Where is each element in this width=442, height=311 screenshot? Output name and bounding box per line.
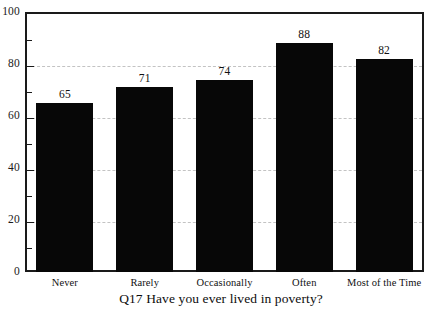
bar bbox=[36, 103, 93, 272]
y-axis-label-20: 20 bbox=[0, 214, 20, 226]
y-axis-label-100: 100 bbox=[0, 6, 20, 18]
bars-layer: 6571748882 bbox=[25, 12, 424, 272]
bar-value-label: 65 bbox=[36, 88, 93, 100]
x-axis-label-most-of-the-time: Most of the Time bbox=[334, 277, 434, 289]
bar-value-label: 82 bbox=[356, 44, 413, 56]
bar bbox=[196, 80, 253, 272]
bar bbox=[356, 59, 413, 272]
bar-value-label: 88 bbox=[276, 28, 333, 40]
bar bbox=[116, 87, 173, 272]
bar bbox=[276, 43, 333, 272]
y-axis-label-40: 40 bbox=[0, 162, 20, 174]
y-axis-label-60: 60 bbox=[0, 110, 20, 122]
bar-slot: 74 bbox=[196, 12, 253, 272]
bar-slot: 82 bbox=[356, 12, 413, 272]
bar-slot: 71 bbox=[116, 12, 173, 272]
y-axis-label-80: 80 bbox=[0, 58, 20, 70]
y-axis-label-0: 0 bbox=[0, 266, 20, 278]
bar-value-label: 74 bbox=[196, 65, 253, 77]
bar-chart: 020406080100 6571748882 NeverRarelyOccas… bbox=[0, 0, 442, 311]
bar-slot: 88 bbox=[276, 12, 333, 272]
bar-slot: 65 bbox=[36, 12, 93, 272]
bar-value-label: 71 bbox=[116, 72, 173, 84]
x-axis-title: Q17 Have you ever lived in poverty? bbox=[0, 291, 442, 307]
